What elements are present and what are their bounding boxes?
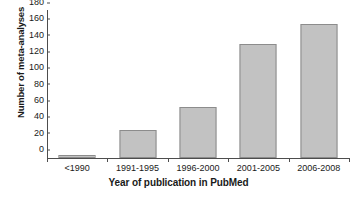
x-axis-tick-label: <1990	[47, 163, 107, 173]
bar[interactable]	[59, 155, 96, 158]
bar[interactable]	[179, 107, 216, 158]
bar-slot	[168, 11, 228, 158]
bar[interactable]	[300, 24, 337, 158]
y-axis-tick-label: 120	[29, 47, 47, 56]
y-axis-tick: 20	[34, 128, 47, 137]
y-axis-tick: 180	[29, 0, 47, 7]
y-axis-tick-label: 60	[34, 96, 47, 105]
bar[interactable]	[240, 44, 277, 158]
y-axis-tick: 60	[34, 96, 47, 105]
y-axis-tick-label: 40	[34, 112, 47, 121]
y-axis-tick: 140	[29, 30, 47, 39]
bar-slot	[107, 11, 167, 158]
y-axis-tick: 0	[39, 145, 47, 154]
x-axis-line	[47, 158, 350, 159]
x-axis-tick-label: 1996-2000	[168, 163, 228, 173]
x-axis-tick-label: 2001-2005	[228, 163, 288, 173]
y-axis-tick-label: 160	[29, 14, 47, 23]
bar-slot	[47, 11, 107, 158]
y-axis-tick: 120	[29, 47, 47, 56]
y-axis-tick-label: 80	[34, 79, 47, 88]
x-axis-tick-label: 2006-2008	[289, 163, 349, 173]
bar[interactable]	[119, 130, 156, 158]
y-axis-tick-label: 0	[39, 145, 47, 154]
bar-slot	[228, 11, 288, 158]
y-axis-tick: 40	[34, 112, 47, 121]
x-axis-tick-mark	[349, 158, 350, 162]
x-axis-tick-mark	[228, 158, 229, 162]
y-axis-tick-label: 100	[29, 63, 47, 72]
x-axis-tick-label: 1991-1995	[107, 163, 167, 173]
y-axis-tick: 80	[34, 79, 47, 88]
x-axis-tick-mark	[168, 158, 169, 162]
bar-series	[47, 11, 349, 158]
bar-slot	[289, 11, 349, 158]
bar-chart: Number of meta-analyses 0204060801001201…	[0, 0, 357, 201]
x-axis-tick-mark	[107, 158, 108, 162]
y-axis-tick-label: 180	[29, 0, 47, 7]
y-axis-tick: 100	[29, 63, 47, 72]
x-axis-title: Year of publication in PubMed	[0, 177, 357, 188]
y-axis-tick: 160	[29, 14, 47, 23]
x-axis-tick-mark	[47, 158, 48, 162]
x-axis-tick-mark	[289, 158, 290, 162]
y-axis-tick-label: 140	[29, 30, 47, 39]
y-axis-title: Number of meta-analyses	[15, 0, 26, 138]
plot-area: 020406080100120140160180	[47, 11, 349, 158]
y-axis-tick-label: 20	[34, 128, 47, 137]
y-axis-tick-mark	[47, 2, 50, 3]
